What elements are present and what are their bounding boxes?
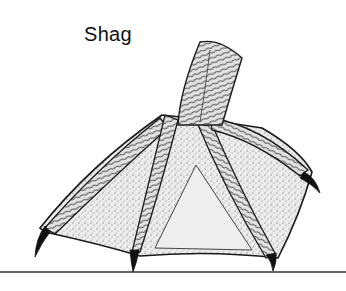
shag-foot-drawing — [0, 0, 346, 291]
foot-illustration-figure: Shag — [0, 0, 346, 291]
tarsus — [178, 41, 242, 125]
claw-inner-left — [130, 250, 139, 272]
claw-middle — [266, 253, 276, 271]
claw-outer-left — [35, 226, 50, 257]
